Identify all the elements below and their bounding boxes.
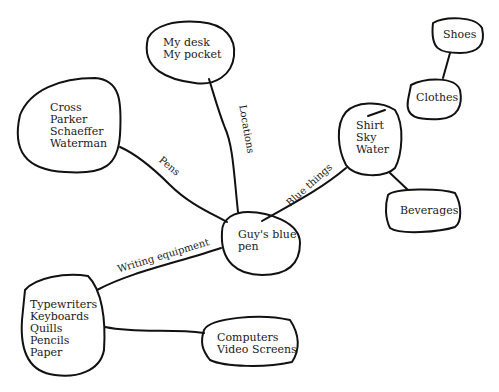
edge-clothes <box>368 110 385 116</box>
edge-shoes <box>443 53 450 78</box>
node-locations: My desk My pocket <box>163 37 221 61</box>
node-writing-equipment: Typewriters Keyboards Quills Pencils Pap… <box>30 299 97 359</box>
node-shoes: Shoes <box>443 29 476 41</box>
edge-pens <box>120 147 227 222</box>
node-beverages: Beverages <box>400 205 458 217</box>
node-clothes: Clothes <box>416 92 458 104</box>
node-pens: Cross Parker Schaeffer Waterman <box>50 102 107 150</box>
edge-beverages <box>390 173 408 190</box>
node-center: Guy's blue pen <box>238 229 296 253</box>
node-computers: Computers Video Screens <box>217 332 297 356</box>
edge-computers <box>105 327 204 333</box>
edge-locations <box>209 79 238 212</box>
node-blue-things: Shirt Sky Water <box>356 120 389 156</box>
